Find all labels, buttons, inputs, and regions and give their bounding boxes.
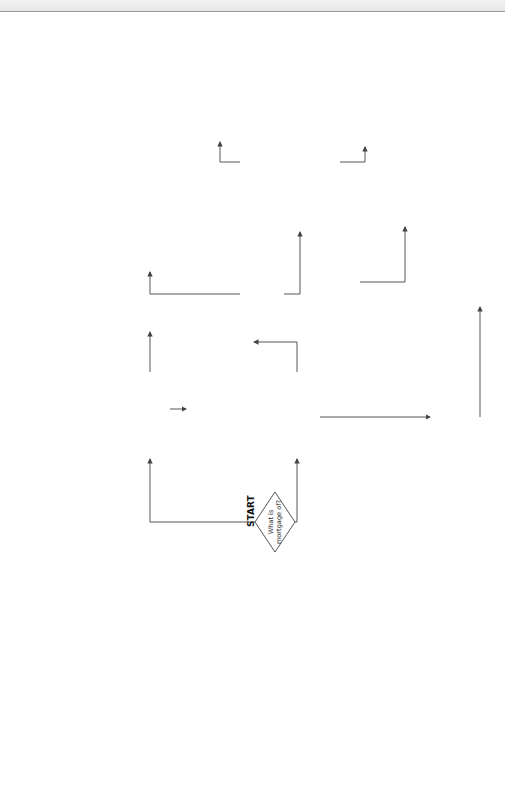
flowchart: START What ismortgage of? (0, 0, 505, 802)
flowchart-page: START What ismortgage of? (0, 0, 505, 802)
decision-mortgage-of: What ismortgage of? (255, 492, 295, 552)
